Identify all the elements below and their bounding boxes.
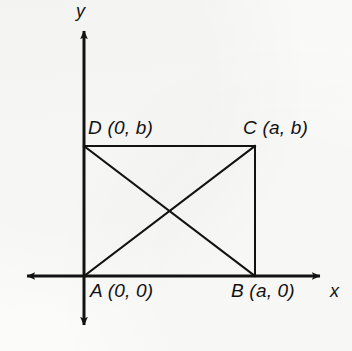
coordinate-diagram: [0, 0, 352, 351]
vertex-label-D: D (0, b): [88, 118, 153, 137]
x-axis-label: x: [330, 282, 339, 300]
y-axis-label: y: [76, 2, 85, 20]
vertex-label-C: C (a, b): [243, 118, 308, 137]
vertex-label-B: B (a, 0): [231, 281, 295, 300]
vertex-label-A: A (0, 0): [90, 281, 153, 300]
diagonal-group: [84, 146, 255, 276]
geometry-figure: D (0, b) C (a, b) A (0, 0) B (a, 0) y x: [0, 0, 352, 351]
